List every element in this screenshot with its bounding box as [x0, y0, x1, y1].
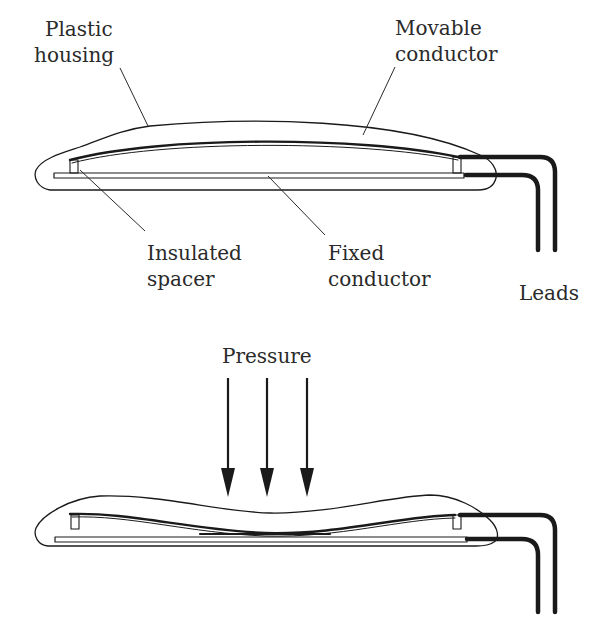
fixed-conductor-pressed	[55, 537, 467, 542]
label-insulated-spacer: Insulated spacer	[147, 240, 242, 292]
label-leads-line1: Leads	[519, 280, 579, 306]
pressure-arrow-1	[221, 378, 235, 497]
plastic-housing-outline-pressed	[35, 495, 497, 546]
label-fixed-conductor-line2: conductor	[328, 266, 431, 292]
label-fixed-conductor-line1: Fixed	[328, 240, 431, 266]
plastic-housing-outline	[35, 121, 496, 190]
leader-fixed-conductor	[268, 176, 325, 235]
top-switch-assembly	[35, 121, 555, 250]
fixed-conductor	[54, 173, 464, 178]
switch-diagram-svg	[0, 0, 610, 632]
label-plastic-housing-line2: housing	[34, 42, 114, 68]
label-movable-conductor-line2: conductor	[395, 41, 498, 67]
label-plastic-housing: Plastic housing	[34, 16, 114, 68]
bottom-switch-assembly	[35, 495, 555, 612]
pressure-arrows	[221, 378, 314, 497]
top-leader-lines	[80, 67, 395, 235]
label-leads: Leads	[519, 280, 579, 306]
label-movable-conductor-line1: Movable	[395, 15, 498, 41]
label-pressure-text: Pressure	[222, 343, 312, 369]
movable-conductor	[70, 142, 458, 160]
label-fixed-conductor: Fixed conductor	[328, 240, 431, 292]
label-movable-conductor: Movable conductor	[395, 15, 498, 67]
label-pressure: Pressure	[222, 343, 312, 369]
leader-plastic-housing	[120, 68, 148, 126]
lead-lower	[466, 175, 538, 250]
pressure-arrow-2	[260, 378, 274, 497]
pressure-arrow-3	[300, 378, 314, 497]
leader-insulated-spacer	[80, 170, 145, 231]
lead-upper-pressed	[460, 515, 555, 612]
label-plastic-housing-line1: Plastic	[34, 16, 114, 42]
lead-upper	[460, 157, 555, 250]
diagram-canvas: Plastic housing Movable conductor Insula…	[0, 0, 610, 632]
leader-movable-conductor	[363, 67, 395, 135]
label-insulated-spacer-line2: spacer	[147, 266, 242, 292]
lead-lower-pressed	[467, 539, 538, 612]
label-insulated-spacer-line1: Insulated	[147, 240, 242, 266]
